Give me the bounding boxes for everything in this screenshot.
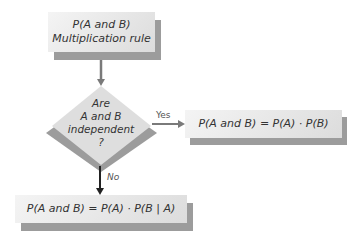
decision-question: Are A and B independent ? [56, 97, 146, 149]
arrow-head-icon [178, 120, 185, 128]
arrow-head-icon [97, 79, 105, 86]
decision-line: ? [56, 136, 146, 149]
start-box-title: P(A and B) [73, 18, 131, 32]
yes-label: Yes [156, 110, 171, 120]
decision-line: A and B [56, 110, 146, 123]
decision-line: Are [56, 97, 146, 110]
no-result-formula: P(A and B) = P(A) · P(B | A) [27, 202, 175, 216]
start-box-subtitle: Multiplication rule [52, 32, 151, 46]
yes-result-box: P(A and B) = P(A) · P(B) [185, 110, 342, 138]
yes-result-formula: P(A and B) = P(A) · P(B) [198, 117, 328, 131]
arrow-head-icon [96, 188, 104, 195]
start-box: P(A and B) Multiplication rule [48, 12, 155, 52]
decision-line: independent [56, 123, 146, 136]
no-result-box: P(A and B) = P(A) · P(B | A) [15, 195, 187, 223]
no-label: No [107, 172, 119, 182]
